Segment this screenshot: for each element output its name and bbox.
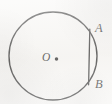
point-label-a: A <box>95 22 103 35</box>
center-point-dot <box>55 57 59 61</box>
circle-outline <box>9 12 97 100</box>
chord-ab-line <box>89 29 90 85</box>
geometry-figure: O A B <box>0 0 112 104</box>
point-label-b: B <box>95 78 103 91</box>
center-label-o: O <box>42 52 50 64</box>
